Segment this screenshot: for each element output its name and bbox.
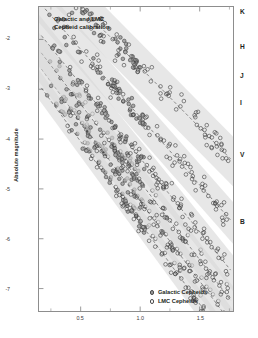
data-point-lmc (190, 177, 194, 181)
data-point-lmc (201, 310, 205, 311)
data-point-lmc (132, 113, 136, 117)
data-point-lmc (129, 152, 133, 156)
data-point-lmc (97, 59, 101, 63)
data-point-lmc (225, 218, 229, 222)
data-point-lmc (165, 182, 169, 186)
data-point-galactic (121, 161, 125, 165)
data-point-lmc (203, 133, 207, 137)
data-point-lmc (151, 174, 155, 178)
data-point-lmc (126, 165, 130, 169)
data-point-lmc (147, 239, 151, 243)
filled-circle-icon (150, 290, 154, 294)
legend-item-galactic: Galactic Cepheids (150, 288, 207, 297)
data-point-lmc (95, 53, 99, 57)
data-point-lmc (181, 215, 185, 219)
data-point-lmc (168, 142, 172, 146)
data-point-lmc (216, 247, 220, 251)
data-point-lmc (143, 207, 147, 211)
data-point-lmc (150, 65, 154, 69)
data-point-galactic (98, 128, 102, 132)
data-point-lmc (180, 197, 184, 201)
data-point-lmc (153, 245, 157, 249)
y-axis-label: Absolute magnitude (13, 95, 19, 215)
data-point-galactic (123, 50, 127, 54)
data-point-galactic (121, 182, 125, 186)
y-tick-label: -3 (0, 85, 10, 91)
data-point-lmc (149, 80, 153, 84)
data-point-lmc (134, 65, 138, 69)
legend-label-galactic: Galactic Cepheids (158, 288, 207, 297)
data-point-lmc (68, 129, 72, 133)
data-point-lmc (111, 84, 115, 88)
data-point-lmc (148, 133, 152, 137)
data-point-lmc (168, 85, 172, 89)
data-point-lmc (175, 271, 179, 275)
data-point-lmc (171, 227, 175, 231)
data-point-galactic (92, 56, 96, 60)
data-point-lmc (165, 155, 169, 159)
data-point-lmc (111, 37, 115, 41)
data-point-lmc (134, 150, 138, 154)
data-point-galactic (76, 78, 80, 82)
data-point-lmc (220, 203, 224, 207)
data-point-lmc (169, 271, 173, 275)
data-point-galactic (96, 71, 100, 75)
data-point-galactic (75, 104, 79, 108)
data-point-lmc (96, 102, 100, 106)
data-point-lmc (192, 253, 196, 257)
data-point-lmc (155, 183, 159, 187)
data-point-lmc (169, 263, 173, 267)
data-point-lmc (215, 145, 219, 149)
data-point-lmc (161, 206, 165, 210)
data-point-lmc (205, 123, 209, 127)
data-point-lmc (165, 215, 169, 219)
data-point-lmc (199, 262, 203, 266)
data-point-lmc (174, 108, 178, 112)
data-point-lmc (135, 59, 139, 63)
data-point-lmc (220, 148, 224, 152)
data-point-lmc (224, 157, 228, 161)
data-point-lmc (164, 262, 168, 266)
data-point-lmc (202, 306, 206, 310)
data-point-lmc (93, 146, 97, 150)
data-point-lmc (194, 274, 198, 278)
data-point-lmc (71, 81, 75, 85)
data-point-lmc (159, 137, 163, 141)
data-point-lmc (184, 223, 188, 227)
band-label-K: K (240, 8, 254, 15)
data-point-lmc (95, 165, 99, 169)
data-point-lmc (223, 253, 227, 257)
data-point-lmc (204, 267, 208, 271)
data-point-lmc (114, 172, 118, 176)
data-point-lmc (211, 276, 215, 280)
data-point-lmc (122, 203, 126, 207)
data-point-lmc (166, 243, 170, 247)
band-label-J: J (240, 72, 254, 79)
data-point-lmc (137, 229, 141, 233)
data-point-lmc (155, 224, 159, 228)
data-point-lmc (180, 165, 184, 169)
data-point-galactic (64, 43, 68, 47)
data-point-lmc (171, 247, 175, 251)
data-point-lmc (74, 41, 78, 45)
y-tick-label: -2 (0, 35, 10, 41)
data-point-lmc (136, 70, 140, 74)
data-point-lmc (115, 33, 119, 37)
data-point-lmc (72, 35, 76, 39)
data-point-lmc (146, 126, 150, 130)
data-point-lmc (102, 34, 106, 38)
data-point-lmc (124, 137, 128, 141)
data-point-galactic (92, 31, 96, 35)
data-point-lmc (220, 142, 224, 146)
data-point-lmc (84, 50, 88, 54)
data-point-lmc (118, 193, 122, 197)
data-point-lmc (148, 216, 152, 220)
data-point-lmc (219, 280, 223, 284)
data-point-lmc (109, 96, 113, 100)
legend-label-lmc: LMC Cepheids (158, 297, 198, 306)
data-point-lmc (113, 59, 117, 63)
data-point-galactic (118, 89, 122, 93)
data-point-lmc (128, 107, 132, 111)
data-point-lmc (120, 166, 124, 170)
data-point-lmc (107, 119, 111, 123)
